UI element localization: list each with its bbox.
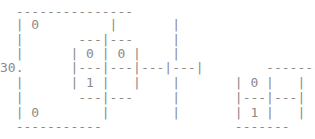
ascii-line-8: | 0 | | | 1 | | [0,105,305,120]
ascii-line-6: | | 1 | | | | 0 | | [0,75,305,90]
ascii-line-3: | ---|--- | [0,32,180,47]
ascii-line-5-row-label: 30. |---|---|---|---| ------- [0,60,315,75]
ascii-line-9-bottom-border: ----------- ------- [0,119,290,134]
ascii-line-4: | | 0 | 0 | | [0,46,180,61]
ascii-diagram-canvas: --------------- | 0 | | | ---|--- | | | … [0,0,315,139]
ascii-line-2: | 0 | | [0,17,180,32]
ascii-line-7: | ---|--- | |---|---| [0,90,305,105]
